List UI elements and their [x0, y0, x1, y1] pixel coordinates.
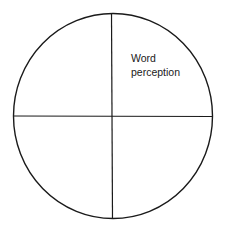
quadrant-label-top-right-line1: Word [131, 52, 156, 64]
quadrant-label-top-right-line2: perception [131, 66, 180, 78]
quadrant-circle-diagram: Word perception [0, 0, 226, 230]
horizontal-divider [14, 116, 213, 117]
